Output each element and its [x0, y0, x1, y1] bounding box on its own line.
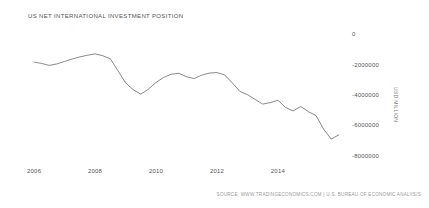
line-chart-svg [28, 28, 348, 168]
y-tick-label: -2000000 [352, 62, 379, 68]
plot-area [28, 28, 348, 168]
y-tick-label: -4000000 [352, 92, 379, 98]
y-axis-title: USD MILLION [393, 87, 399, 122]
x-axis: 20062008201020122014 [28, 168, 348, 180]
chart-title: US NET INTERNATIONAL INVESTMENT POSITION [28, 13, 183, 19]
y-tick-label: 0 [352, 31, 356, 37]
source-note: SOURCE: WWW.TRADINGECONOMICS.COM | U.S. … [217, 192, 421, 197]
y-tick-label: -6000000 [352, 122, 379, 128]
x-tick-label: 2012 [210, 168, 224, 174]
x-tick-label: 2010 [149, 168, 163, 174]
x-tick-label: 2008 [88, 168, 102, 174]
y-tick-label: -8000000 [352, 153, 379, 159]
series-line [34, 54, 339, 139]
x-tick-label: 2014 [271, 168, 285, 174]
x-tick-label: 2006 [27, 168, 41, 174]
chart-container: US NET INTERNATIONAL INVESTMENT POSITION… [0, 0, 429, 208]
